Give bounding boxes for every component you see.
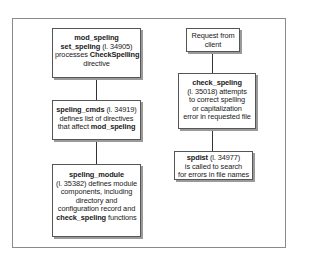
box-text-line: that affect mod_speling (55, 123, 138, 132)
function-name: mod_speling (91, 122, 135, 131)
box-check-speling: check_speling(l. 35018) attemptsto corre… (178, 73, 256, 129)
description-text: that affect (58, 122, 91, 131)
box-spdist: spdist (l. 34977)is called to searchfor … (174, 151, 253, 180)
box-text-line: check_speling functions (55, 214, 138, 223)
description-text: directive (83, 59, 110, 68)
connector-mod-to-cmds (96, 78, 97, 100)
box-speling-cmds: speling_cmds (l. 34919)defines list of d… (52, 100, 141, 140)
box-text-line: directive (55, 60, 138, 69)
connector-request-to-check (212, 52, 213, 73)
description-text: functions (106, 213, 137, 222)
box-mod-speling: mod_spelingset_speling (l. 34905)process… (52, 28, 141, 78)
box-text-line: for errors in file names (177, 171, 250, 180)
box-request-from-client: Request fromclient (186, 28, 240, 52)
connector-check-to-spdist (212, 129, 213, 151)
description-text: client (205, 40, 222, 49)
description-text: error in requested file (183, 112, 251, 121)
box-text-line: client (189, 41, 237, 50)
connector-cmds-to-module (96, 140, 97, 164)
box-text-line: error in requested file (181, 113, 253, 122)
box-speling-module: speling_module(l. 35382) defines modulec… (52, 164, 141, 237)
description-text: for errors in file names (178, 170, 249, 179)
function-name: check_speling (56, 213, 106, 222)
